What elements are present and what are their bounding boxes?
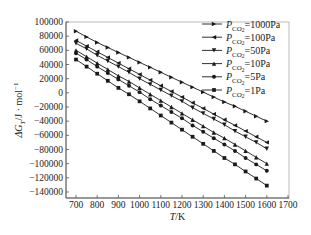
marker-triangle-left [243,129,247,133]
marker-circle [265,169,269,173]
marker-square [265,184,269,188]
y-tick-label: −120000 [29,173,63,183]
y-tick-label: −40000 [34,116,63,126]
marker-triangle-down [233,129,237,133]
marker-triangle-right [116,50,120,54]
marker-triangle-right [222,100,226,104]
marker-square [117,86,121,90]
marker-triangle-down [190,106,194,110]
x-tick-label: 1200 [173,200,192,210]
marker-triangle-right [95,40,99,44]
y-tick-label: 80000 [39,31,63,41]
marker-triangle-left [212,35,216,39]
marker-square [254,177,258,181]
x-tick-label: 1000 [130,200,149,210]
marker-circle [85,58,89,62]
marker-triangle-up [148,92,152,96]
legend-item: PCO2=1Pa [202,85,266,100]
marker-triangle-up [233,142,237,146]
marker-square [212,149,216,153]
marker-circle [244,156,248,160]
marker-square [148,107,152,111]
marker-triangle-down [148,82,152,86]
marker-triangle-up [222,136,226,140]
marker-triangle-down [180,99,184,103]
marker-triangle-right [265,119,269,123]
marker-triangle-left [265,140,269,144]
marker-triangle-right [159,70,163,74]
marker-triangle-up [212,130,216,134]
marker-square [85,65,89,69]
x-tick-label: 1500 [236,200,255,210]
marker-circle [254,162,258,166]
marker-triangle-up [243,149,247,153]
x-axis-label: T/K [170,211,186,222]
marker-triangle-left [190,101,194,105]
x-tick-label: 900 [111,200,126,210]
x-tick-label: 700 [69,200,84,210]
marker-triangle-right [169,75,173,79]
marker-triangle-up [254,155,258,159]
chart-legend: PCO2=1000PaPCO2=100PaPCO2=50PaPCO2=10PaP… [202,19,281,100]
marker-triangle-right [243,109,247,113]
marker-circle [191,123,195,127]
marker-triangle-left [212,112,216,116]
marker-triangle-right [106,45,110,49]
marker-triangle-right [127,55,131,59]
y-tick-label: 20000 [39,74,63,84]
marker-square [201,142,205,146]
marker-triangle-left [233,123,237,127]
marker-triangle-down [84,47,88,51]
marker-triangle-right [180,80,184,84]
marker-triangle-up [137,86,141,90]
marker-triangle-right [84,35,88,39]
marker-square [244,170,248,174]
x-tick-label: 1400 [215,200,234,210]
marker-triangle-up [180,111,184,115]
y-tick-label: 100000 [35,17,64,27]
marker-triangle-down [74,41,78,45]
marker-square [233,163,237,167]
marker-triangle-left [148,78,152,82]
marker-triangle-down [222,123,226,127]
marker-square [106,79,110,83]
marker-circle [127,84,131,88]
marker-square [212,88,216,92]
marker-square [127,92,131,96]
chart-svg: 100000800006000040000200000−20000−40000−… [0,0,311,235]
marker-triangle-right [212,95,216,99]
marker-triangle-up [190,118,194,122]
marker-triangle-up [265,161,269,165]
marker-triangle-up [159,98,163,102]
marker-triangle-down [169,93,173,97]
x-tick-label: 1300 [194,200,213,210]
marker-triangle-right [148,65,152,69]
marker-triangle-down [116,64,120,68]
marker-triangle-up [106,67,110,71]
marker-square [180,128,184,132]
y-tick-label: −60000 [34,130,63,140]
marker-square [74,58,78,62]
marker-triangle-down [127,70,131,74]
marker-triangle-up [95,61,99,65]
marker-triangle-down [212,117,216,121]
marker-triangle-down [243,135,247,139]
marker-square [223,156,227,160]
marker-circle [180,116,184,120]
marker-circle [116,77,120,81]
marker-circle [212,75,216,79]
marker-circle [233,149,237,153]
marker-triangle-right [137,60,141,64]
x-tick-label: 1700 [279,200,298,210]
x-tick-label: 1600 [257,200,276,210]
x-tick-label: 800 [90,200,105,210]
marker-square [170,121,174,125]
marker-triangle-right [201,90,205,94]
marker-triangle-left [254,135,258,139]
marker-triangle-down [95,53,99,57]
marker-triangle-down [159,88,163,92]
gibbs-energy-chart: 100000800006000040000200000−20000−40000−… [0,0,311,235]
y-tick-label: 60000 [39,45,63,55]
marker-circle [212,136,216,140]
marker-triangle-right [233,104,237,108]
